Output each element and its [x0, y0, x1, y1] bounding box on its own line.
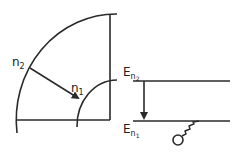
label-n1: n1	[71, 82, 84, 97]
label-E-n2-sub-index: 2	[136, 75, 140, 82]
label-E-n1-base: E	[123, 122, 131, 136]
photon-circle	[173, 135, 183, 145]
photon-wave	[182, 121, 199, 136]
diagram-canvas	[0, 0, 238, 153]
label-n2-subscript: 2	[20, 62, 25, 71]
label-n1-subscript: 1	[79, 88, 84, 97]
label-n2: n2	[12, 56, 25, 71]
label-E-n2: En2	[123, 66, 140, 82]
label-n1-base: n	[71, 81, 79, 95]
label-E-n1-sub-index: 1	[136, 132, 140, 139]
outer-arc	[16, 14, 117, 133]
label-E-n1: En1	[123, 123, 140, 139]
label-n2-base: n	[12, 55, 20, 69]
label-E-n2-base: E	[123, 65, 131, 79]
